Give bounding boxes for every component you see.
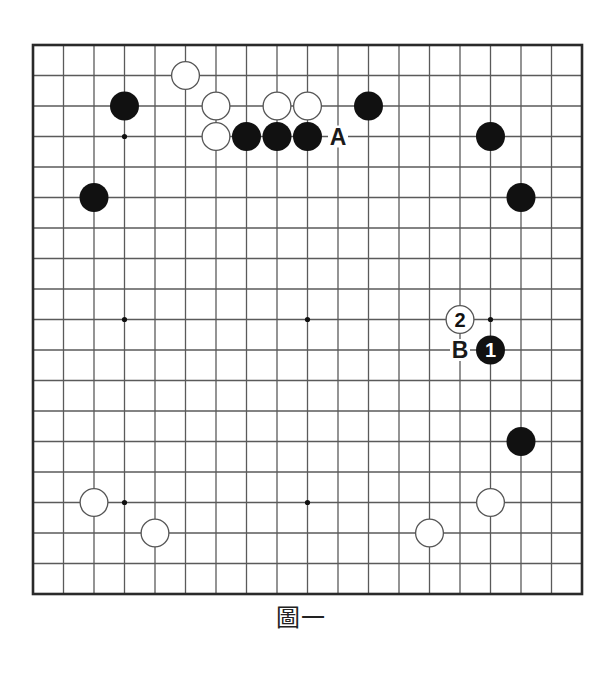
star-point (122, 317, 127, 322)
white-stone (202, 123, 230, 151)
white-stone (80, 489, 108, 517)
black-stone (80, 183, 109, 212)
star-point (305, 500, 310, 505)
white-stone (294, 92, 322, 120)
black-stone (263, 122, 292, 151)
black-stone (110, 92, 139, 121)
figure-caption: 圖一 (0, 598, 602, 633)
black-stone (354, 92, 383, 121)
go-board-diagram: AB21 (0, 0, 602, 674)
mark-label-b: B (452, 337, 469, 363)
move-number-1: 1 (485, 339, 496, 361)
white-stone (416, 519, 444, 547)
white-stone (172, 62, 200, 90)
black-stone (476, 122, 505, 151)
black-stone (232, 122, 261, 151)
white-stone (202, 92, 230, 120)
mark-label-a: A (330, 124, 347, 150)
star-point (122, 134, 127, 139)
star-point (488, 317, 493, 322)
go-board: AB21 (0, 0, 602, 674)
white-stone (141, 519, 169, 547)
black-stone (507, 183, 536, 212)
white-stone (477, 489, 505, 517)
star-point (122, 500, 127, 505)
star-point (305, 317, 310, 322)
move-number-2: 2 (454, 309, 465, 331)
white-stone (263, 92, 291, 120)
black-stone (507, 427, 536, 456)
black-stone (293, 122, 322, 151)
